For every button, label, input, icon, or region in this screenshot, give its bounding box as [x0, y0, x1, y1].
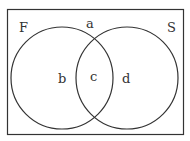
set-f-label: F: [19, 20, 28, 35]
region-outside-label: a: [86, 16, 94, 31]
region-intersection-label: c: [90, 69, 97, 84]
region-s-only-label: d: [122, 71, 130, 86]
region-f-only-label: b: [58, 71, 66, 86]
venn-diagram: F S a b c d: [0, 0, 190, 141]
set-s-label: S: [167, 20, 176, 35]
